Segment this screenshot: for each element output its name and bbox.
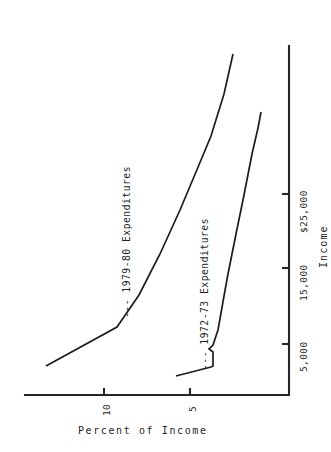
series-label-1979-80: --- 1979-80 Expenditures	[121, 166, 132, 318]
series-line-1972-73	[176, 112, 261, 376]
income-tick-label-15000: 15,000	[298, 264, 309, 301]
figure-container: 5,000 15,000 $25,000 Income 10 5 Percent…	[0, 0, 331, 452]
chart-plot-area	[0, 0, 331, 452]
percent-tick-label-5: 5	[187, 406, 198, 412]
income-tick-label-25000: $25,000	[298, 190, 309, 233]
series-label-1972-73: --- 1972-73 Expenditures	[199, 218, 210, 370]
income-tick-label-5000: 5,000	[298, 341, 309, 372]
income-axis-title: Income	[318, 225, 329, 268]
percent-axis-title: Percent of Income	[78, 425, 208, 436]
percent-tick-label-10: 10	[101, 404, 112, 416]
